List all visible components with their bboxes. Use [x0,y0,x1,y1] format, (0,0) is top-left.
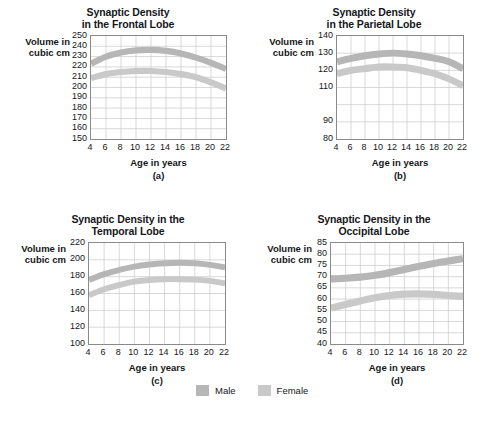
panel-a-y-tick-label: 200 [72,82,87,91]
panel-c-y-tick-label: 100 [70,339,85,348]
panel-d: Synaptic Density in the Occipital Lobe V… [256,213,492,386]
panel-d-y-axis-title: Volume in cubic cm [256,242,312,265]
panel-d-y-tick-label: 75 [317,260,327,269]
panel-a-x-tick-label: 6 [102,142,107,152]
panel-b-letter: (b) [336,170,464,181]
panel-b-title-line2: in the Parietal Lobe [256,18,492,30]
panel-d-x-tick-label: 8 [357,347,362,357]
panel-a-y-tick-label: 210 [72,72,87,81]
panel-c-x-tick-label: 16 [174,347,184,357]
panel-b-title: Synaptic Density in the Parietal Lobe [256,6,492,30]
panel-a-plot [90,35,227,140]
panel-d-x-tick-label: 10 [369,347,379,357]
panel-a-title-line2: in the Frontal Lobe [8,18,248,30]
panel-d-y-tick-label: 50 [317,316,327,325]
panel-c-x-tick-label: 22 [219,347,229,357]
panel-b-y-tick-label: 90 [323,116,333,125]
panel-c-x-tick-label: 6 [101,347,106,357]
panel-b-plot-svg [337,36,463,139]
panel-b-x-tick-label: 10 [373,142,383,152]
panel-c-band-female [89,279,225,295]
panel-d-x-ticks: 46810121416182022 [330,347,464,358]
panel-a-y-tick-label: 180 [72,103,87,112]
panel-a-x-tick-label: 20 [205,142,215,152]
panel-a-y-axis-title: Volume in cubic cm [8,35,70,58]
panel-a-y-tick-label: 170 [72,113,87,122]
panel-d-x-tick-label: 12 [384,347,394,357]
panel-b-x-tick-label: 22 [457,142,467,152]
panel-d-y-tick-label: 80 [317,249,327,258]
legend-swatch-female-icon [258,385,271,396]
panel-b-x-tick-label: 4 [333,142,338,152]
panel-c-title-line1: Synaptic Density in the [8,213,248,225]
panel-d-y-tick-label: 60 [317,294,327,303]
panel-b-y-tick-label: 120 [318,65,333,74]
panel-d-x-tick-label: 18 [428,347,438,357]
panel-c-y-tick-label: 140 [70,305,85,314]
panel-a-x-tick-label: 22 [220,142,230,152]
panel-b-x-tick-label: 20 [443,142,453,152]
panel-a-band-female [91,71,226,89]
panel-b: Synaptic Density in the Parietal Lobe Vo… [256,6,492,181]
panel-d-x-tick-label: 22 [457,347,467,357]
panel-c-y-axis-title: Volume in cubic cm [8,242,66,265]
panel-d-y-tick-label: 85 [317,238,327,247]
panel-b-y-ticks: 8090110120130140 [314,35,336,140]
panel-d-x-tick-label: 16 [413,347,423,357]
legend-label-female: Female [277,385,309,396]
panel-b-x-tick-label: 6 [347,142,352,152]
panel-b-y-axis-title: Volume in cubic cm [256,35,314,58]
panel-c-x-tick-label: 4 [85,347,90,357]
panel-d-y-ticks: 40455055606570758085 [312,242,330,345]
panel-c-y-ticks: 100120140160180200220 [66,242,88,345]
panel-b-x-tick-label: 12 [387,142,397,152]
panel-c-y-tick-label: 220 [70,238,85,247]
panel-b-x-tick-label: 18 [429,142,439,152]
panel-d-x-tick-label: 4 [327,347,332,357]
panel-c-x-tick-label: 12 [143,347,153,357]
panel-a-y-ticks: 150160170180190200210220230240250 [70,35,90,140]
panel-a-x-tick-label: 10 [130,142,140,152]
figure-canvas: Synaptic Density in the Frontal Lobe Vol… [0,0,494,427]
panel-a: Synaptic Density in the Frontal Lobe Vol… [8,6,248,181]
panel-c-x-axis-title: Age in years [88,362,226,373]
panel-d-y-tick-label: 45 [317,327,327,336]
panel-c-y-tick-label: 160 [70,288,85,297]
panel-c-y-tick-label: 120 [70,322,85,331]
panel-c-x-tick-label: 14 [159,347,169,357]
panel-d-plot-svg [331,243,463,344]
panel-c-y-tick-label: 180 [70,271,85,280]
panel-d-y-tick-label: 40 [317,339,327,348]
panel-d-letter: (d) [330,375,464,386]
panel-b-x-ticks: 46810121416182022 [336,142,464,153]
panel-c-title: Synaptic Density in the Temporal Lobe [8,213,248,237]
panel-d-y-tick-label: 65 [317,282,327,291]
panel-c-plot-svg [89,243,225,344]
panel-a-y-tick-label: 190 [72,92,87,101]
panel-d-x-axis-title: Age in years [330,362,464,373]
panel-a-x-tick-label: 12 [145,142,155,152]
panel-a-x-tick-label: 16 [175,142,185,152]
panel-c-x-ticks: 46810121416182022 [88,347,226,358]
panel-d-band-female [331,294,463,308]
panel-a-x-tick-label: 8 [117,142,122,152]
legend-item-female: Female [258,385,309,396]
panel-a-letter: (a) [90,170,227,181]
panel-b-y-tick-label: 130 [318,48,333,57]
panel-a-y-tick-label: 240 [72,41,87,50]
panel-c-y-tick-label: 200 [70,254,85,263]
panel-c-x-tick-label: 8 [116,347,121,357]
panel-a-x-tick-label: 18 [190,142,200,152]
legend-label-male: Male [215,385,236,396]
panel-d-x-tick-label: 14 [398,347,408,357]
panel-d-title-line1: Synaptic Density in the [256,213,492,225]
panel-a-y-tick-label: 250 [72,31,87,40]
panel-b-y-tick-label: 80 [323,134,333,143]
panel-b-x-tick-label: 16 [415,142,425,152]
panel-d-x-tick-label: 20 [442,347,452,357]
legend-swatch-male-icon [196,385,209,396]
panel-a-title: Synaptic Density in the Frontal Lobe [8,6,248,30]
panel-d-y-tick-label: 70 [317,271,327,280]
panel-b-x-tick-label: 14 [401,142,411,152]
legend: Male Female [196,385,308,396]
